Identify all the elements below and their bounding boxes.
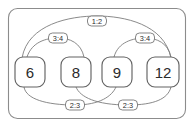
edge-label-2-3-left[interactable]: 2:3 [66,100,85,110]
node-12[interactable]: 12 [147,57,179,87]
node-12-label: 12 [155,64,172,81]
node-8[interactable]: 8 [61,57,91,87]
diagram-canvas: 6 8 9 12 1:2 3:4 [0,0,194,127]
edge-label-2-3-left-text: 2:3 [70,101,80,110]
edge-label-1-2[interactable]: 1:2 [88,16,107,26]
node-6[interactable]: 6 [15,57,45,87]
edge-label-3-4-right-text: 3:4 [140,34,150,43]
ratio-graph-diagram: 6 8 9 12 1:2 3:4 [0,0,194,127]
edge-label-3-4-right[interactable]: 3:4 [136,33,155,43]
node-9-label: 9 [113,64,121,81]
edge-label-1-2-text: 1:2 [92,17,102,26]
node-8-label: 8 [72,64,80,81]
node-9[interactable]: 9 [102,57,132,87]
edge-label-3-4-left[interactable]: 3:4 [49,33,68,43]
edge-label-2-3-right-text: 2:3 [123,101,133,110]
edge-label-2-3-right[interactable]: 2:3 [119,100,138,110]
edge-label-3-4-left-text: 3:4 [53,34,63,43]
node-6-label: 6 [26,64,34,81]
